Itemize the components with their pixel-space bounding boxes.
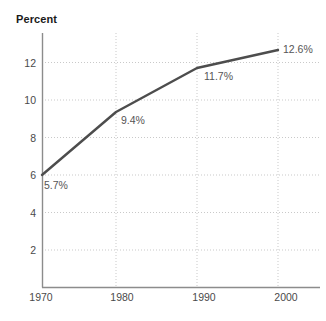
x-tick-label-1980: 1980 — [110, 291, 133, 303]
line-chart: Percent 12 10 8 6 4 2 1970 1980 1990 200… — [0, 0, 326, 321]
data-series-line — [42, 50, 278, 175]
data-label-1980: 9.4% — [121, 114, 145, 126]
y-tick-label: 4 — [8, 207, 36, 219]
x-tick-label-1990: 1990 — [192, 291, 215, 303]
chart-canvas — [0, 0, 326, 321]
y-tick-label: 10 — [8, 94, 36, 106]
y-tick-label: 12 — [8, 57, 36, 69]
y-tick-label: 8 — [8, 132, 36, 144]
x-tick-label-2000: 2000 — [274, 291, 297, 303]
x-tick-label-1970: 1970 — [29, 291, 52, 303]
data-label-2000: 12.6% — [283, 43, 313, 55]
vertical-gridlines — [116, 33, 278, 287]
y-tick-label: 2 — [8, 244, 36, 256]
data-label-1970: 5.7% — [44, 179, 68, 191]
data-label-1990: 11.7% — [204, 70, 233, 82]
y-tick-label: 6 — [8, 169, 36, 181]
